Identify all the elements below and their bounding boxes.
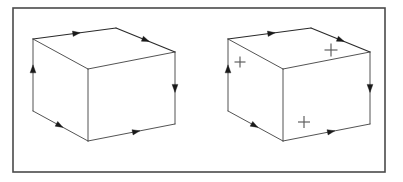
diagram-border bbox=[13, 8, 385, 172]
figure-root bbox=[0, 0, 403, 182]
box-orientation-diagram bbox=[0, 0, 403, 182]
